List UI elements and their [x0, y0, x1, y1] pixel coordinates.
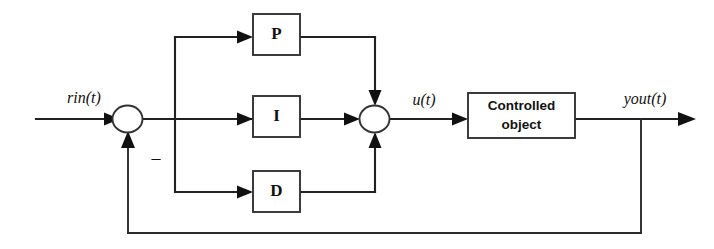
arrowhead-into-control-sum-top	[369, 90, 382, 106]
arrowhead-into-error-sum-feedback	[121, 131, 135, 148]
arrowhead-into-control-sum-bottom	[369, 132, 382, 148]
arrowhead-output	[678, 112, 696, 126]
arrowhead-into-p	[237, 31, 253, 44]
label-feedback-sign: –	[151, 148, 162, 168]
arrowhead-into-d	[237, 186, 253, 199]
block-controlled-object-label-line2: object	[502, 117, 542, 132]
label-output-signal: yout(t)	[622, 90, 667, 108]
label-control-signal: u(t)	[412, 91, 435, 109]
control-summing-junction[interactable]	[360, 106, 390, 133]
arrowhead-into-plant	[452, 113, 468, 126]
arrowhead-into-i	[237, 113, 253, 126]
block-p-label: P	[271, 24, 281, 43]
label-reference-signal: rin(t)	[67, 89, 101, 107]
pid-block-diagram: P I D Controlled object rin(t) u(t) yout…	[0, 0, 714, 249]
error-summing-junction[interactable]	[113, 106, 143, 133]
arrowhead-into-control-sum-left	[344, 113, 360, 126]
block-controlled-object-label-line1: Controlled	[488, 98, 556, 113]
diagram-canvas: P I D Controlled object rin(t) u(t) yout…	[0, 0, 714, 249]
block-i-label: I	[273, 106, 280, 125]
block-d-label: D	[270, 181, 282, 200]
